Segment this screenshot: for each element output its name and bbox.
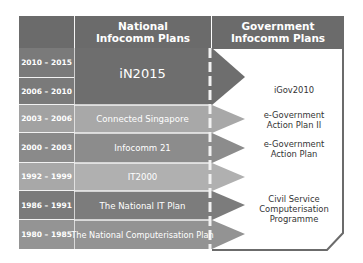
gov-plan-label-line1: e-Government — [264, 139, 325, 149]
year-2000-2003: 2000 – 2003 — [19, 133, 74, 163]
plan-label: IT2000 — [128, 172, 158, 182]
gov-plan-label-line2: Action Plan II — [267, 120, 321, 130]
header-government-line2: Infocomm Plans — [231, 32, 325, 44]
plan-national-computerisation-plan: The National Computerisation Plan — [75, 220, 210, 249]
year-label: 1986 – 1991 — [21, 201, 72, 210]
plan-in2015: iN2015 — [75, 48, 210, 98]
plan-connected-singapore: Connected Singapore — [75, 105, 210, 133]
gov-plan-igov2010: iGov2010 — [246, 80, 342, 100]
year-2003-2006: 2003 – 2006 — [19, 105, 74, 133]
plan-label: Connected Singapore — [96, 114, 188, 124]
plan-label: The National IT Plan — [99, 201, 185, 211]
header-national-line1: National — [118, 20, 168, 32]
plan-national-it-plan: The National IT Plan — [75, 191, 210, 220]
header-years-blank — [19, 16, 74, 48]
gov-plan-label-line3: Programme — [270, 214, 319, 224]
header-national-plans: National Infocomm Plans — [75, 16, 211, 48]
year-label: 2010 – 2015 — [21, 58, 72, 67]
plan-it2000: IT2000 — [75, 163, 210, 191]
year-2006-2010: 2006 – 2010 — [19, 78, 74, 105]
year-1986-1991: 1986 – 1991 — [19, 191, 74, 220]
gov-plan-label-line1: e-Government — [264, 110, 325, 120]
year-1980-1985: 1980 – 1985 — [19, 220, 74, 249]
plan-label: The National Computerisation Plan — [71, 230, 214, 240]
year-2010-2015: 2010 – 2015 — [19, 48, 74, 78]
gov-plan-civil-service-computerisation: Civil Service Computerisation Programme — [246, 193, 342, 225]
gov-plan-label-line1: Civil Service — [268, 194, 319, 204]
year-label: 1980 – 1985 — [21, 230, 72, 239]
gov-plan-label: iGov2010 — [274, 85, 314, 95]
year-1992-1999: 1992 – 1999 — [19, 163, 74, 191]
gov-plan-egov-action-plan-2: e-Government Action Plan II — [246, 109, 342, 131]
plan-label: iN2015 — [119, 66, 165, 81]
year-label: 2000 – 2003 — [21, 143, 72, 152]
plan-infocomm-21: Infocomm 21 — [75, 133, 210, 163]
header-government-line1: Government — [241, 20, 314, 32]
year-label: 2003 – 2006 — [21, 114, 72, 123]
year-label: 2006 – 2010 — [21, 87, 72, 96]
header-government-plans: Government Infocomm Plans — [212, 16, 344, 48]
header-national-line2: Infocomm Plans — [96, 32, 190, 44]
year-label: 1992 – 1999 — [21, 172, 72, 181]
gov-plan-egov-action-plan: e-Government Action Plan — [246, 138, 342, 160]
gov-plan-label-line2: Computerisation — [259, 204, 329, 214]
plan-label: Infocomm 21 — [114, 143, 171, 153]
gov-plan-label-line2: Action Plan — [271, 149, 318, 159]
